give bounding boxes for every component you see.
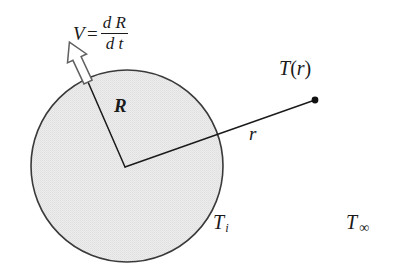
radius-argument: r	[297, 57, 305, 79]
initial-temperature-label: Ti	[213, 212, 229, 235]
ambient-temperature-label: T∞	[346, 212, 369, 235]
field-point-dot	[312, 97, 319, 104]
open-paren: (	[290, 57, 297, 79]
temperature-at-r-label: T(r)	[279, 58, 311, 78]
fraction-numerator: d R	[101, 14, 128, 33]
initial-temperature-symbol: T	[213, 211, 224, 233]
close-paren: )	[305, 57, 312, 79]
equals-sign: =	[87, 24, 98, 43]
radius-label: R	[114, 96, 127, 115]
ambient-temperature-subscript: ∞	[359, 220, 369, 235]
heat-transfer-sphere-diagram: V = d R d t R r T(r) Ti T∞	[0, 0, 394, 269]
velocity-equation-label: V = d R d t	[73, 14, 128, 53]
ambient-temperature-symbol: T	[346, 211, 357, 233]
velocity-symbol: V	[73, 24, 85, 43]
initial-temperature-subscript: i	[225, 221, 228, 235]
distance-label: r	[249, 124, 256, 143]
fraction-denominator: d t	[104, 34, 125, 53]
temperature-symbol: T	[279, 57, 290, 79]
derivative-fraction: d R d t	[101, 14, 128, 53]
diagram-canvas	[0, 0, 394, 269]
